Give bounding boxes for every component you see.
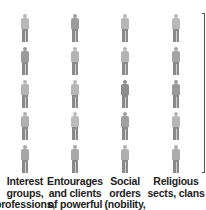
person-icon (20, 145, 30, 173)
person-icon (70, 145, 80, 173)
person-icon (20, 47, 30, 75)
person-icon (120, 145, 130, 173)
person-icon (120, 112, 130, 140)
person-icon (70, 80, 80, 108)
person-icon (120, 47, 130, 75)
person-icon (171, 80, 181, 108)
person-icon (120, 80, 130, 108)
person-icon (171, 14, 181, 42)
person-icon (171, 112, 181, 140)
person-icon (70, 14, 80, 42)
person-icon (120, 14, 130, 42)
person-icon (70, 112, 80, 140)
person-icon (70, 47, 80, 75)
column-label-religious-sects: Religious sects, clans (146, 176, 206, 199)
person-icon (20, 14, 30, 42)
person-icon (171, 145, 181, 173)
person-icon (171, 47, 181, 75)
person-icon (20, 112, 30, 140)
right-bracket-line (202, 13, 205, 173)
person-icon (20, 80, 30, 108)
